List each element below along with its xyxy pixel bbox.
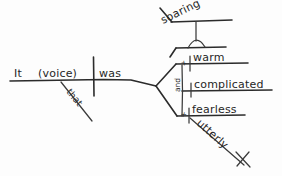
word-predicate-adjective-2: complicated: [194, 78, 264, 91]
main-baseline: [10, 80, 156, 87]
word-conjunction: and: [173, 78, 182, 92]
word-that: that: [64, 86, 85, 108]
word-subject: It: [14, 67, 22, 80]
subject-verb-divider: [94, 57, 95, 96]
pedestal-to-warm-connector: [170, 48, 176, 57]
diagram-drawing: It (voice) was that warm complicated fea…: [0, 0, 282, 176]
soaring-pedestal-bar: [176, 47, 226, 48]
conjunction-connector-line: [182, 65, 183, 91]
word-predicate-adjective-1: warm: [193, 51, 225, 64]
word-predicate-adjective-3: fearless: [192, 103, 237, 116]
word-adverb: utterly: [194, 117, 231, 152]
soaring-baseline: [171, 20, 232, 22]
word-verb: was: [99, 67, 121, 80]
word-appositive: (voice): [38, 67, 77, 80]
sentence-diagram-canvas: It (voice) was that warm complicated fea…: [0, 0, 282, 176]
connector-mark-fearless: x: [179, 110, 188, 118]
